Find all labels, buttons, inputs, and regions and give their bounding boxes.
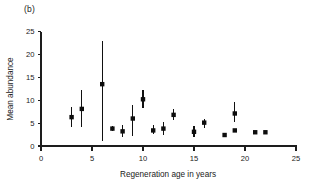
- point-marker: [100, 82, 104, 86]
- point-marker: [263, 130, 267, 134]
- point-marker: [171, 113, 175, 117]
- x-axis: 0510152025 Regeneration age in years: [39, 146, 300, 179]
- y-axis-ticks: 0510152025: [26, 27, 41, 151]
- y-tick-label: 0: [30, 142, 34, 151]
- point-marker: [233, 111, 237, 115]
- data-point: [222, 133, 226, 137]
- data-point: [233, 128, 237, 132]
- point-marker: [110, 126, 114, 130]
- point-marker: [253, 130, 257, 134]
- point-marker: [69, 115, 73, 119]
- data-point: [141, 90, 145, 108]
- scatter-plot-mean-abundance-vs-regeneration-age: 0510152025 Mean abundance 0510152025 Reg…: [0, 0, 317, 192]
- data-point: [120, 125, 124, 136]
- y-tick-label: 15: [26, 73, 34, 82]
- point-marker: [131, 116, 135, 120]
- y-axis: 0510152025 Mean abundance: [6, 27, 42, 151]
- data-point: [171, 109, 175, 120]
- data-point: [192, 126, 196, 137]
- data-point: [263, 130, 267, 134]
- y-tick-label: 20: [26, 50, 34, 59]
- y-tick-label: 25: [26, 27, 34, 36]
- point-marker: [202, 120, 206, 124]
- y-tick-label: 10: [26, 96, 34, 105]
- data-point: [110, 126, 114, 131]
- point-marker: [233, 128, 237, 132]
- data-point: [233, 102, 237, 122]
- point-marker: [151, 128, 155, 132]
- x-tick-label: 15: [190, 154, 198, 163]
- y-axis-title: Mean abundance: [6, 57, 15, 121]
- data-point: [100, 41, 104, 141]
- x-axis-title: Regeneration age in years: [120, 170, 216, 179]
- x-tick-label: 20: [241, 154, 249, 163]
- x-tick-label: 0: [39, 154, 43, 163]
- x-axis-ticks: 0510152025: [39, 146, 300, 163]
- data-point: [80, 90, 84, 127]
- point-marker: [161, 126, 165, 130]
- data-point: [151, 125, 155, 134]
- y-tick-label: 5: [30, 119, 34, 128]
- point-marker: [192, 130, 196, 134]
- figure-panel-b: (b) 0510152025 Mean abundance 0510152025…: [0, 0, 317, 192]
- data-point: [131, 105, 135, 136]
- x-tick-label: 5: [90, 154, 94, 163]
- x-tick-label: 25: [292, 154, 300, 163]
- data-point: [161, 122, 165, 135]
- point-marker: [141, 97, 145, 101]
- data-series-mean-abundance: [69, 41, 267, 141]
- point-marker: [120, 129, 124, 133]
- data-point: [69, 107, 73, 127]
- data-point: [253, 130, 257, 134]
- data-point: [202, 119, 206, 128]
- x-tick-label: 10: [139, 154, 147, 163]
- point-marker: [80, 107, 84, 111]
- point-marker: [222, 133, 226, 137]
